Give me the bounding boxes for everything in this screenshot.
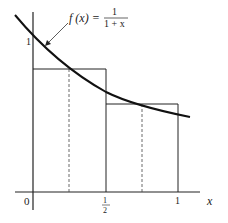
function-curve [15,15,190,117]
origin-label: 0 [24,195,30,207]
x-axis-label: x [206,194,213,208]
function-label-den: 1 + x [104,18,125,29]
x-tick-label-half-num: 1 [103,196,107,205]
rectangle-2 [106,104,178,192]
y-tick-label-1: 1 [26,36,31,47]
rectangle-1 [33,69,106,192]
x-tick-label-1: 1 [175,195,180,206]
function-label-lhs: f (x) = [69,11,100,25]
label-pointer [47,23,68,44]
diagram: f (x) = 1 1 + x 1 0 1 2 1 x [0,0,228,223]
function-label-num: 1 [112,6,117,17]
x-tick-label-half-den: 2 [103,206,107,215]
